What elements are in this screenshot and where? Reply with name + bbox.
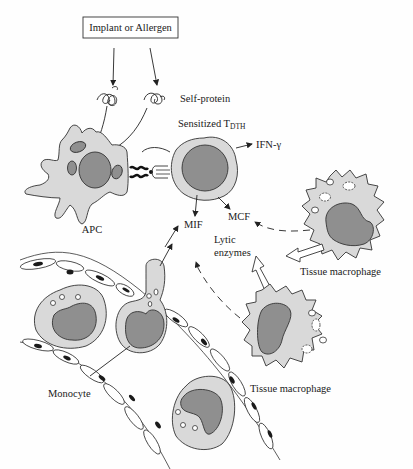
monocyte-tissue (172, 376, 234, 449)
hollow-arrow-icon (286, 244, 324, 262)
mhc-tcr-interaction-icon (130, 166, 170, 178)
arrow-icon (218, 197, 230, 209)
tissue-macrophage-label-bottom: Tissue macrophage (250, 383, 331, 394)
self-protein-squiggle-icon (97, 87, 165, 106)
apc-cell (25, 125, 128, 224)
implant-allergen-box: Implant or Allergen (83, 17, 178, 38)
dth-diagram: Implant or Allergen Self-protein APC Sen… (0, 0, 413, 469)
self-protein-label: Self-protein (180, 93, 231, 104)
arrow-icon (160, 244, 172, 266)
leader-line (90, 346, 130, 376)
blood-vessel-lower-wall (20, 337, 170, 469)
lytic-label: Lytic (214, 234, 236, 245)
tissue-macrophage-label-top: Tissue macrophage (300, 266, 381, 277)
arrow-icon (150, 48, 157, 85)
monocyte-label: Monocyte (48, 388, 91, 399)
arrow-icon (113, 48, 114, 85)
ifn-gamma-label: IFN-γ (256, 139, 281, 150)
mcf-label: MCF (228, 211, 250, 222)
sensitized-t-label: Sensitized TDTH (178, 118, 246, 131)
monocyte-migrating (116, 259, 167, 353)
arrow-icon (112, 108, 147, 150)
monocyte-in-vessel (34, 285, 106, 348)
tissue-macrophage-bottom (242, 284, 327, 368)
arrow-icon (255, 222, 310, 231)
arrow-icon (142, 148, 170, 153)
enzymes-label: enzymes (214, 247, 251, 258)
arrow-icon (165, 226, 178, 247)
arrow-icon (196, 262, 240, 318)
arrow-icon (236, 144, 252, 148)
sensitized-tdth-cell (171, 137, 237, 200)
apc-label: APC (82, 224, 102, 235)
implant-allergen-label: Implant or Allergen (89, 22, 172, 33)
mif-label: MIF (184, 219, 203, 230)
